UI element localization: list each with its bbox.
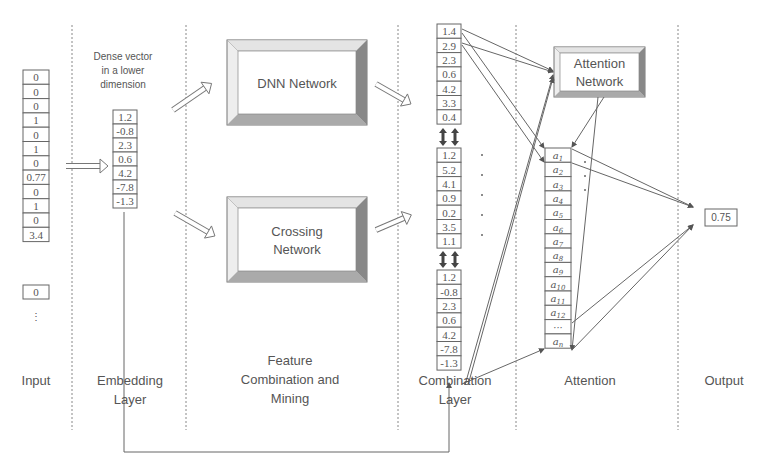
attention-weight-cell: a4	[545, 191, 571, 206]
output-value: 0.75	[711, 212, 731, 223]
cross-output-cell: 3.5	[437, 220, 461, 234]
input-cell: 0	[23, 99, 49, 113]
input-cell: 1	[23, 199, 49, 213]
to-attention-weights	[462, 33, 544, 148]
embedding-value: 0.6	[118, 153, 132, 165]
cross-output-value: 3.5	[442, 221, 456, 233]
column-label-embedding: Layer	[114, 392, 147, 407]
dnn-output-cell: 4.2	[437, 81, 461, 95]
attention-weight-cell: a1	[545, 148, 571, 163]
dnn-output-value: 3.3	[442, 97, 456, 109]
column-label-embedding: Embedding	[97, 373, 163, 388]
weights-to-output	[572, 225, 693, 350]
embedding-copy-value: 2.3	[442, 300, 456, 312]
attention-weight-cell: a12	[545, 305, 571, 320]
column-label-feature: Combination and	[241, 372, 339, 387]
cross-output-value: 1.2	[442, 149, 456, 161]
embedding-vector: 1.2-0.82.30.64.2-7.8-1.3	[113, 110, 137, 208]
input-cell: 0	[23, 70, 49, 84]
embedding-copy-cell: -1.3	[437, 356, 461, 370]
embedding-copy-cell: 4.2	[437, 327, 461, 341]
embedding-copy-value: 1.2	[442, 271, 456, 283]
to-attention-network	[468, 78, 553, 385]
input-vector: 00010100.770103.4⋮0	[23, 70, 49, 322]
embedding-cell: -1.3	[113, 194, 137, 208]
attention-weight-cell: a11	[545, 291, 571, 306]
attention-weight-cell: a10	[545, 277, 571, 292]
embedding-cell: -0.8	[113, 124, 137, 138]
cross-output-value: 4.1	[442, 178, 456, 190]
input-cell: 0	[23, 213, 49, 227]
column-label-combination: Combination	[419, 373, 492, 388]
embedding-value: 2.3	[118, 139, 132, 151]
input-value: 0	[33, 157, 39, 169]
embedding-copy-cell: -0.8	[437, 284, 461, 298]
dnn-output-value: 1.4	[442, 25, 456, 37]
input-value: 0	[33, 71, 39, 83]
output-box: 0.75	[705, 209, 737, 226]
input-value: 0	[33, 286, 39, 298]
dnn-network-box: DNN Network	[227, 40, 367, 125]
input-cell: 0	[23, 127, 49, 141]
crossing-to-combination-arrow	[376, 212, 411, 230]
dnn-output-value: 2.9	[442, 40, 456, 52]
attention-network-box: AttentionNetwork	[554, 47, 645, 97]
input-cell: 0	[23, 184, 49, 198]
attention-weight-cell: a9	[545, 262, 571, 277]
dnn-output-cell: 2.9	[437, 38, 461, 52]
column-label-attention: Attention	[564, 373, 615, 388]
attention-network-box-label: Attention	[574, 56, 625, 71]
embedding-copy-cell: 2.3	[437, 299, 461, 313]
embedding-value: 1.2	[118, 111, 132, 123]
dnn-output-value: 0.6	[442, 68, 456, 80]
input-value: 0	[33, 186, 39, 198]
dnn-output-value: 4.2	[442, 83, 456, 95]
input-cell: 0.77	[23, 170, 49, 184]
embedding-copy-value: 0.6	[442, 314, 456, 326]
architecture-diagram: 00010100.770103.4⋮0 1.2-0.82.30.64.2-7.8…	[0, 0, 767, 468]
cross-output-value: 1.1	[442, 235, 456, 247]
embedding-copy-value: -1.3	[440, 357, 458, 369]
input-cell: 1	[23, 142, 49, 156]
attention-weight-cell: a7	[545, 234, 571, 249]
input-value: 3.4	[29, 229, 43, 241]
embedding-value: 4.2	[118, 167, 132, 179]
attention-network-box-label: Network	[576, 74, 624, 89]
input-cell: 0	[23, 156, 49, 170]
caption-line: in a lower	[102, 65, 145, 76]
dnn-output-cell: 3.3	[437, 96, 461, 110]
embedding-to-dnn-arrow	[173, 82, 212, 110]
dnn-network-box-label: DNN Network	[257, 76, 337, 91]
embedding-copy-cell: 1.2	[437, 270, 461, 284]
embedding-cell: 1.2	[113, 110, 137, 124]
input-value: 0	[33, 129, 39, 141]
column-label-output: Output	[704, 373, 743, 388]
attention-network-to-weights	[572, 97, 604, 147]
embedding-value: -1.3	[116, 195, 134, 207]
attention-weight-label: ···	[553, 322, 563, 333]
embedding-copy-value: -7.8	[440, 343, 458, 355]
attention-weight-cell: a2	[545, 162, 571, 177]
embedding-copy-cell: 0.6	[437, 313, 461, 327]
input-value: 0.77	[26, 171, 46, 183]
embedding-value: -0.8	[116, 125, 134, 137]
to-attention-weights	[462, 45, 544, 162]
input-value: 1	[33, 143, 39, 155]
attention-weight-cell: ···	[545, 320, 571, 334]
cross-output-cell: 4.1	[437, 177, 461, 191]
attention-weight-cell: a6	[545, 220, 571, 235]
embedding-cell: -7.8	[113, 180, 137, 194]
dnn-output-cell: 0.6	[437, 67, 461, 81]
column-label-combination: Layer	[439, 392, 472, 407]
dnn-output-value: 0.4	[442, 111, 456, 123]
column-labels: InputEmbeddingLayerFeatureCombination an…	[22, 353, 744, 407]
embedding-value: -7.8	[116, 181, 134, 193]
embedding-cell: 4.2	[113, 166, 137, 180]
attention-weight-cell: an	[545, 334, 571, 349]
column-label-feature: Feature	[268, 353, 313, 368]
cross-output-cell: 5.2	[437, 162, 461, 176]
dnn-output-cell: 2.3	[437, 53, 461, 67]
attention-weight-cell: a3	[545, 177, 571, 192]
cross-output-value: 0.9	[442, 192, 456, 204]
cross-output-value: 0.2	[442, 207, 456, 219]
